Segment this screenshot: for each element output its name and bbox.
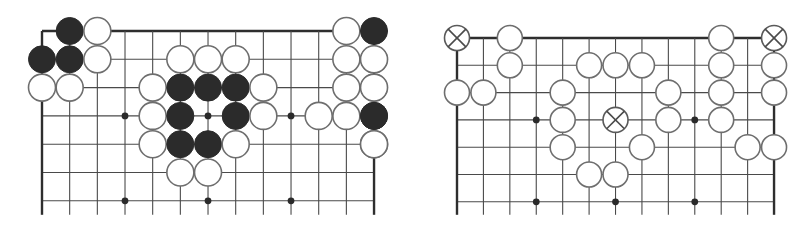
white-stone (471, 80, 496, 105)
white-stone (139, 102, 166, 129)
crossed-stone-icon (445, 26, 470, 51)
go-diagram-figure (0, 0, 808, 228)
white-stone (29, 74, 56, 101)
white-stone (550, 107, 575, 132)
white-stone (709, 107, 734, 132)
star-point-icon (205, 197, 212, 204)
black-stone (361, 18, 388, 45)
black-stone (222, 74, 249, 101)
white-stone (361, 74, 388, 101)
go-diagram-canvas (0, 0, 808, 228)
white-stone (550, 80, 575, 105)
white-stone (333, 46, 360, 73)
star-point-icon (533, 117, 540, 124)
white-stone (762, 80, 787, 105)
right-board (445, 26, 787, 215)
white-stone (222, 131, 249, 158)
white-stone (762, 135, 787, 160)
white-stone (84, 46, 111, 73)
black-stone (222, 102, 249, 129)
white-stone (629, 135, 654, 160)
black-stone (167, 102, 194, 129)
black-stone (195, 131, 222, 158)
white-stone (361, 131, 388, 158)
star-point-icon (533, 198, 540, 205)
white-stone (195, 159, 222, 186)
white-stone (56, 74, 83, 101)
white-stone (305, 102, 332, 129)
white-stone (735, 135, 760, 160)
white-stone (195, 46, 222, 73)
white-stone (762, 53, 787, 78)
white-stone (250, 102, 277, 129)
white-stone (550, 135, 575, 160)
star-point-icon (122, 113, 129, 120)
black-stone (56, 18, 83, 45)
white-stone (709, 53, 734, 78)
white-stone (497, 26, 522, 51)
white-stone (167, 159, 194, 186)
black-stone (195, 74, 222, 101)
star-point-icon (691, 198, 698, 205)
white-stone (656, 80, 681, 105)
white-stone (577, 162, 602, 187)
star-point-icon (691, 117, 698, 124)
black-stone (56, 46, 83, 73)
white-stone (333, 102, 360, 129)
white-stone (167, 46, 194, 73)
white-stone (333, 74, 360, 101)
white-stone (84, 18, 111, 45)
white-stone (333, 18, 360, 45)
star-point-icon (288, 113, 295, 120)
white-stone (709, 26, 734, 51)
white-stone (222, 46, 249, 73)
left-board (29, 18, 388, 215)
white-stone (361, 46, 388, 73)
white-stone (139, 131, 166, 158)
black-stone (167, 131, 194, 158)
white-stone (709, 80, 734, 105)
white-stone (629, 53, 654, 78)
white-stone (603, 53, 628, 78)
crossed-stone-icon (762, 26, 787, 51)
white-stone (139, 74, 166, 101)
crossed-stone-icon (603, 107, 628, 132)
black-stone (361, 102, 388, 129)
white-stone (577, 53, 602, 78)
white-stone (603, 162, 628, 187)
white-stone (497, 53, 522, 78)
white-stone (445, 80, 470, 105)
star-point-icon (288, 197, 295, 204)
star-point-icon (122, 197, 129, 204)
white-stone (250, 74, 277, 101)
white-stone (656, 107, 681, 132)
black-stone (167, 74, 194, 101)
star-point-icon (205, 113, 212, 120)
star-point-icon (612, 198, 619, 205)
black-stone (29, 46, 56, 73)
